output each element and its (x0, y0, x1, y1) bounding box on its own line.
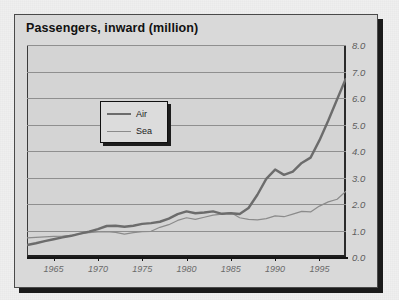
x-axis-tick-label: 1990 (265, 264, 285, 274)
legend-swatch-air-icon (107, 113, 131, 115)
legend-label-air: Air (136, 109, 147, 119)
y-axis-tick-label: 7.0 (352, 66, 382, 77)
chart-frame: Passengers, inward (million) 8.07.06.05.… (14, 14, 378, 288)
x-axis-tick (231, 257, 232, 261)
legend-swatch-sea-icon (107, 131, 131, 132)
x-axis-tick (98, 257, 99, 261)
y-axis-tick-label: 2.0 (352, 199, 382, 210)
chart-title: Passengers, inward (million) (26, 21, 198, 35)
y-axis-tick-label: 8.0 (352, 40, 382, 51)
y-axis-tick-label: 0.0 (352, 252, 382, 263)
x-axis-tick (142, 257, 143, 261)
series-line-air (27, 78, 346, 245)
y-axis-tick-label: 4.0 (352, 146, 382, 157)
x-axis-tick-label: 1970 (88, 264, 108, 274)
x-axis-tick-label: 1995 (309, 264, 329, 274)
series-line-sea (27, 191, 346, 238)
plot-area (27, 45, 346, 257)
x-axis-tick (54, 257, 55, 261)
y-axis-tick-label: 1.0 (352, 225, 382, 236)
x-axis-line (27, 257, 348, 259)
y-axis-tick-label: 3.0 (352, 172, 382, 183)
chart-legend: Air Sea (100, 101, 168, 143)
x-axis-tick-label: 1980 (176, 264, 196, 274)
series-canvas (27, 45, 346, 257)
legend-item-sea: Sea (107, 124, 167, 138)
x-axis-tick (319, 257, 320, 261)
x-axis-tick (275, 257, 276, 261)
y-axis-tick-label: 5.0 (352, 119, 382, 130)
x-axis-tick (187, 257, 188, 261)
x-axis-tick-label: 1965 (44, 264, 64, 274)
legend-item-air: Air (107, 107, 167, 121)
y-axis-tick-label: 6.0 (352, 93, 382, 104)
x-axis-tick-label: 1975 (132, 264, 152, 274)
x-axis-tick-label: 1985 (221, 264, 241, 274)
legend-label-sea: Sea (136, 126, 152, 136)
